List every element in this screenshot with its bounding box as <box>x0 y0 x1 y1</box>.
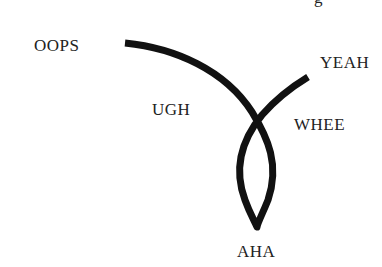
label-yeah: YEAH <box>320 54 369 71</box>
label-whee: WHEE <box>294 116 345 133</box>
label-aha: AHA <box>237 243 275 260</box>
diagram-canvas: g OOPS YEAH UGH WHEE AHA <box>0 0 382 267</box>
clipped-top-text: g <box>314 0 323 8</box>
label-oops: OOPS <box>34 37 79 54</box>
label-ugh: UGH <box>152 101 190 118</box>
curve-path <box>125 43 308 227</box>
